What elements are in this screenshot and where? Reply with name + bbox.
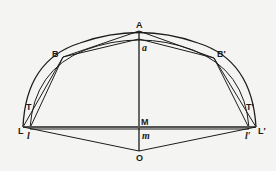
label-M: M <box>141 117 149 127</box>
radius-OL <box>23 127 139 151</box>
label-l-prime: l′ <box>245 130 251 141</box>
label-L: L <box>18 126 24 136</box>
label-a: a <box>142 42 147 53</box>
label-B: B <box>52 49 59 59</box>
label-B-prime: B′ <box>217 49 226 59</box>
label-l: l <box>27 130 30 141</box>
radius-OL-prime <box>139 127 256 151</box>
geometry-diagram: A a B B′ T T′ L l L′ l′ M m O <box>0 0 276 171</box>
label-A: A <box>136 20 143 30</box>
label-T-prime: T′ <box>246 102 254 112</box>
label-O: O <box>136 153 143 163</box>
label-T: T <box>26 102 32 112</box>
label-L-prime: L′ <box>258 126 266 136</box>
label-m: m <box>142 130 150 141</box>
